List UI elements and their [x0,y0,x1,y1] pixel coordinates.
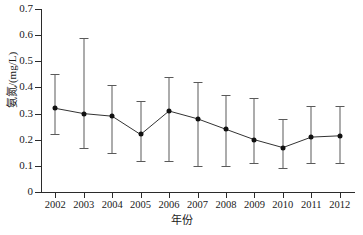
x-tick-label: 2005 [130,199,151,210]
x-tick-mark [311,193,312,198]
y-tick-mark [35,35,41,36]
y-tick-label-text: 0.1 [19,160,33,171]
data-point-marker [138,132,143,137]
x-tick-mark [141,193,142,198]
error-bar-stem [197,82,198,166]
x-axis-title: 年份 [0,214,363,226]
error-bar-cap-upper [307,106,316,107]
error-bar-stem [254,98,255,163]
x-tick-label: 2002 [45,199,66,210]
error-bar-stem [55,74,56,134]
error-bar-cap-upper [193,82,202,83]
y-tick-label-text: 0.5 [19,55,33,66]
y-tick-label-text: 0.7 [19,3,33,14]
error-bar-cap-lower [250,163,259,164]
error-bar-cap-lower [136,161,145,162]
error-bar-cap-upper [250,98,259,99]
y-axis-title: 氨氮/(mg/L) [6,32,18,128]
error-bar-cap-upper [79,38,88,39]
x-tick-label: 2007 [187,199,208,210]
error-bar-cap-upper [221,95,230,96]
y-tick-mark [35,192,41,193]
data-point-marker [81,111,86,116]
error-bar-cap-upper [51,74,60,75]
error-bar-cap-lower [108,153,117,154]
error-bar-cap-upper [136,101,145,102]
x-tick-mark [340,193,341,198]
x-tick-label: 2010 [272,199,293,210]
y-tick-mark [35,9,41,10]
error-bar-cap-lower [79,148,88,149]
data-point-marker [167,108,172,113]
x-tick-mark [55,193,56,198]
x-tick-label: 2011 [301,199,322,210]
error-bar-stem [83,38,84,148]
data-point-marker [223,127,228,132]
x-tick-mark [226,193,227,198]
x-tick-mark [169,193,170,198]
x-tick-mark [254,193,255,198]
chart-figure: 氨氮/(mg/L) 00.10.20.30.40.50.60.7 2002200… [0,0,363,235]
y-tick-label-text: 0.6 [19,29,33,40]
y-tick-mark [35,61,41,62]
x-tick-mark [283,193,284,198]
data-point-marker [110,114,115,119]
x-tick-label: 2003 [73,199,94,210]
x-tick-mark [84,193,85,198]
error-bar-cap-upper [278,119,287,120]
y-tick-label-text: 0 [28,186,34,197]
error-bar-stem [140,101,141,161]
error-bar-cap-lower [307,163,316,164]
error-bar-cap-lower [335,163,344,164]
error-bar-cap-lower [221,166,230,167]
data-point-marker [195,116,200,121]
x-tick-label: 2009 [244,199,265,210]
y-tick-label-text: 0.4 [19,81,33,92]
error-bar-cap-upper [165,77,174,78]
y-tick-label-text: 0.2 [19,134,33,145]
error-bar-cap-lower [51,134,60,135]
y-tick-mark [35,114,41,115]
error-bar-cap-upper [108,85,117,86]
y-tick-mark [35,166,41,167]
data-point-marker [309,135,314,140]
error-bar-cap-upper [335,106,344,107]
error-bar-cap-lower [165,161,174,162]
error-bar-stem [282,119,283,169]
x-tick-label: 2008 [215,199,236,210]
error-bar-cap-lower [193,166,202,167]
x-tick-mark [198,193,199,198]
x-tick-label: 2006 [159,199,180,210]
data-point-marker [252,137,257,142]
error-bar-cap-lower [278,168,287,169]
data-point-marker [337,133,342,138]
x-tick-label: 2004 [102,199,123,210]
y-tick-mark [35,140,41,141]
data-point-marker [53,106,58,111]
error-bar-stem [112,85,113,153]
x-tick-label: 2012 [329,199,350,210]
y-tick-mark [35,87,41,88]
y-axis-line [41,9,42,193]
x-tick-mark [112,193,113,198]
data-point-marker [280,145,285,150]
error-bar-stem [169,77,170,161]
y-tick-label-text: 0.3 [19,108,33,119]
